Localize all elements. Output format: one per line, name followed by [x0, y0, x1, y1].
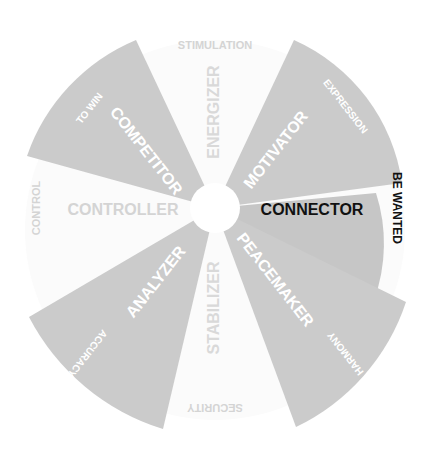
style-label-connector[interactable]: CONNECTOR [261, 201, 364, 218]
style-label-stabilizer: STABILIZER [205, 261, 222, 354]
personality-wheel: STIMULATION SECURITY CONTROL BE WANTED C… [0, 0, 430, 463]
style-label-energizer: ENERGIZER [205, 65, 222, 159]
axis-label-bottom: SECURITY [187, 402, 243, 414]
style-label-controller: CONTROLLER [67, 201, 179, 218]
axis-label-top: STIMULATION [178, 39, 252, 51]
axis-label-right: BE WANTED [390, 172, 404, 244]
axis-label-left: CONTROL [30, 181, 42, 236]
center-circle [190, 183, 240, 233]
